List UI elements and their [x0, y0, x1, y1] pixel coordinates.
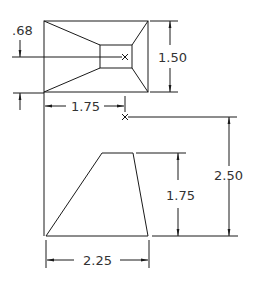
dimension-label-point-height: 2.50 [214, 168, 243, 183]
dimension-label-top-height: 1.50 [158, 50, 187, 65]
dimension-base-width: 2.25 [46, 240, 149, 268]
dimension-label-base-width: 2.25 [83, 253, 112, 268]
dimension-label-width-to-point: 1.75 [71, 99, 100, 114]
top-view-edge [132, 68, 148, 92]
dimension-offset: .68 [12, 23, 122, 110]
top-view-edge [44, 21, 100, 45]
front-view [46, 153, 148, 236]
top-view-edge [44, 68, 100, 92]
dimension-top-height: 1.50 [150, 21, 187, 92]
dimension-label-front-height: 1.75 [166, 188, 195, 203]
top-view-edge [132, 21, 148, 45]
dimension-label-offset: .68 [12, 23, 33, 38]
front-view-trapezoid [46, 153, 148, 236]
dimension-width-to-point: 1.75 [44, 92, 237, 236]
point-x-marker-icon [122, 54, 128, 60]
technical-drawing: .68 1.50 1.75 1.75 2.50 [0, 0, 253, 287]
point-x-marker-icon [122, 114, 128, 120]
dimension-front-height: 1.75 [136, 153, 238, 236]
dimension-point-height: 2.50 [214, 117, 243, 236]
